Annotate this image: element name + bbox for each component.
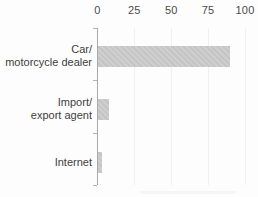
- y-axis-tick: [93, 185, 97, 186]
- bar-1: [98, 46, 231, 67]
- x-axis-tick-label: 0: [94, 4, 100, 16]
- category-label: Import/export agent: [0, 96, 92, 122]
- x-axis-tick-label: 100: [236, 4, 255, 16]
- category-label-line: motorcycle dealer: [0, 56, 92, 69]
- category-label-line: Car/: [0, 43, 92, 56]
- x-axis-tick-label: 25: [128, 4, 141, 16]
- x-axis-tick-label: 50: [165, 4, 178, 16]
- bar-2: [98, 99, 110, 120]
- category-label-line: Import/: [0, 96, 92, 109]
- x-axis-tick-label: 75: [202, 4, 215, 16]
- category-label-line: export agent: [0, 109, 92, 122]
- y-axis-tick: [93, 28, 97, 29]
- gridline: [245, 28, 246, 185]
- y-axis-tick: [93, 80, 97, 81]
- bar-3: [98, 152, 102, 173]
- cropped-caption-artifact: [141, 191, 235, 194]
- y-axis-tick: [93, 133, 97, 134]
- category-label-line: Internet: [0, 156, 92, 169]
- bar-chart: 0255075100Car/motorcycle dealerImport/ex…: [0, 0, 258, 197]
- category-label: Internet: [0, 156, 92, 169]
- category-label: Car/motorcycle dealer: [0, 43, 92, 69]
